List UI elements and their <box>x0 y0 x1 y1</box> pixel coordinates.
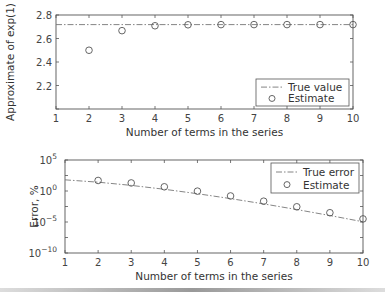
estimate-marker <box>86 47 93 54</box>
y-tick-label: 10−10 <box>28 245 57 259</box>
x-axis-label: Number of terms in the series <box>135 270 292 282</box>
x-tick-label: 9 <box>317 113 323 124</box>
y-tick-label: 2.4 <box>36 57 52 68</box>
estimate-marker <box>194 188 201 195</box>
y-axis-label: Error, % <box>28 185 40 227</box>
x-tick-label: 9 <box>327 257 333 268</box>
error-chart: 1234567891010−1010−5100105Number of term… <box>28 152 369 282</box>
x-tick-label: 6 <box>218 113 224 124</box>
x-tick-label: 8 <box>284 113 290 124</box>
y-tick-label: 2.2 <box>36 81 52 92</box>
x-tick-label: 7 <box>260 257 266 268</box>
estimate-chart: 123456789102.22.42.62.8Number of terms i… <box>4 3 359 138</box>
page-edge-shadow <box>0 288 385 292</box>
x-tick-label: 3 <box>128 257 134 268</box>
legend-label: Estimate <box>303 179 349 191</box>
y-axis-label: Approximate of exp(1) <box>4 3 16 121</box>
legend-label: True value <box>287 81 342 93</box>
x-tick-label: 10 <box>357 257 370 268</box>
x-tick-label: 2 <box>86 113 92 124</box>
x-tick-label: 1 <box>62 257 68 268</box>
x-tick-label: 5 <box>194 257 200 268</box>
x-tick-label: 4 <box>161 257 167 268</box>
legend-label: Estimate <box>288 92 334 104</box>
x-tick-label: 3 <box>119 113 125 124</box>
estimate-marker <box>327 209 334 216</box>
x-tick-label: 8 <box>294 257 300 268</box>
x-tick-label: 6 <box>227 257 233 268</box>
x-tick-label: 10 <box>347 113 360 124</box>
legend-label: True error <box>302 166 355 178</box>
x-tick-label: 1 <box>53 113 59 124</box>
y-tick-label: 100 <box>39 183 57 197</box>
estimate-marker <box>95 177 102 184</box>
x-axis-label: Number of terms in the series <box>126 126 283 138</box>
x-tick-label: 7 <box>251 113 257 124</box>
y-tick-label: 2.6 <box>36 34 52 45</box>
estimate-marker <box>152 22 159 29</box>
x-tick-label: 4 <box>152 113 158 124</box>
legend: True errorEstimate <box>271 163 359 193</box>
legend: True valueEstimate <box>256 79 349 106</box>
chart-figure: 123456789102.22.42.62.8Number of terms i… <box>0 0 385 300</box>
y-tick-label: 105 <box>39 152 57 166</box>
estimate-marker <box>119 27 126 34</box>
estimate-marker <box>161 183 168 190</box>
x-tick-label: 2 <box>95 257 101 268</box>
y-tick-label: 2.8 <box>36 10 52 21</box>
x-tick-label: 5 <box>185 113 191 124</box>
